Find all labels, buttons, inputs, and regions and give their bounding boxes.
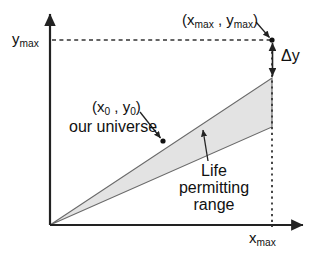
life-range-line-3: range xyxy=(176,197,252,214)
life-range-line-1: Life xyxy=(176,163,252,180)
max-point-x-subscript: max xyxy=(195,19,214,30)
x-max-symbol: x xyxy=(249,229,257,246)
our-point-y-subscript: 0 xyxy=(130,106,136,117)
y-max-subscript: max xyxy=(20,38,39,49)
max-point-y-symbol: y xyxy=(226,11,234,28)
our-universe-point-marker xyxy=(160,138,165,143)
our-point-x-symbol: x xyxy=(97,98,105,115)
max-point-leader-line xyxy=(256,22,270,38)
max-point-coordinate-label: (xmax , ymax) xyxy=(182,12,258,28)
delta-y-label: Δy xyxy=(281,48,300,65)
our-point-separator: , xyxy=(110,98,123,115)
max-point-close-paren: ) xyxy=(253,11,258,28)
diagram-canvas: ymax xmax (xmax , ymax) (x0 , y0) our un… xyxy=(0,0,319,254)
our-universe-coordinate-label: (x0 , y0) xyxy=(92,99,141,115)
max-point-y-subscript: max xyxy=(234,19,253,30)
max-point-separator: , xyxy=(214,11,227,28)
x-max-subscript: max xyxy=(257,237,276,248)
max-point-marker xyxy=(269,37,274,42)
y-max-axis-label: ymax xyxy=(12,31,39,47)
diagram-svg xyxy=(0,0,319,254)
y-max-symbol: y xyxy=(12,30,20,47)
life-range-line-2: permitting xyxy=(176,180,252,197)
max-point-x-symbol: x xyxy=(187,11,195,28)
our-point-x-subscript: 0 xyxy=(105,106,111,117)
life-permitting-range-label: Life permitting range xyxy=(176,163,252,213)
x-max-axis-label: xmax xyxy=(249,230,276,246)
our-point-close-paren: ) xyxy=(136,98,141,115)
our-universe-label: our universe xyxy=(69,119,157,136)
